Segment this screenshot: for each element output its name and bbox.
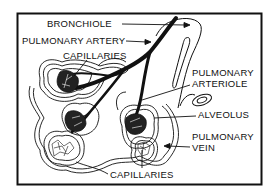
- label-pulmonary-arteriole-line2: ARTERIOLE: [192, 79, 247, 89]
- label-capillaries-bottom: CAPILLARIES: [110, 170, 173, 180]
- label-pulmonary-artery: PULMONARY ARTERY: [22, 36, 125, 46]
- lung-alveoli-illustration: [0, 0, 275, 196]
- label-alveolus: ALVEOLUS: [198, 110, 249, 120]
- diagram-container: BRONCHIOLE PULMONARY ARTERY CAPILLARIES …: [0, 0, 275, 196]
- label-pulmonary-arteriole-line1: PULMONARY: [192, 68, 254, 78]
- label-capillaries-top: CAPILLARIES: [63, 51, 126, 61]
- label-bronchiole: BRONCHIOLE: [47, 19, 112, 29]
- label-pulmonary-vein-line1: PULMONARY: [192, 132, 254, 142]
- label-pulmonary-vein-line2: VEIN: [192, 143, 215, 153]
